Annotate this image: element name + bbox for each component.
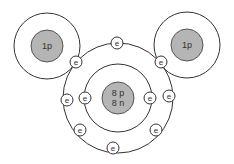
- electron-lower-left: e: [74, 124, 86, 136]
- electron-shared-left: e: [70, 56, 82, 68]
- diagram-canvas: 1p 1p 8 p 8 n eeeeeeeeee: [0, 0, 234, 164]
- electron-shared-right: e: [155, 56, 167, 68]
- oxygen-neutrons-label: 8 n: [112, 98, 125, 108]
- electron-label: e: [74, 58, 79, 67]
- electron-label: e: [115, 39, 120, 48]
- electron-top: e: [111, 37, 123, 49]
- hydrogen-left-nucleus-label: 1p: [42, 41, 52, 51]
- electron-label: e: [111, 144, 116, 153]
- electron-label: e: [148, 94, 153, 103]
- electron-label: e: [167, 92, 172, 101]
- electron-outer-left: e: [61, 94, 73, 106]
- electron-bottom: e: [107, 142, 119, 154]
- electron-label: e: [78, 126, 83, 135]
- hydrogen-atom-left: 1p: [14, 13, 80, 79]
- electron-outer-right: e: [163, 90, 175, 102]
- electron-label: e: [159, 58, 164, 67]
- electron-inner-left: e: [79, 92, 91, 104]
- electron-label: e: [154, 126, 159, 135]
- oxygen-protons-label: 8 p: [112, 88, 125, 98]
- water-molecule-diagram: 1p 1p 8 p 8 n eeeeeeeeee: [0, 0, 234, 164]
- electron-lower-right: e: [150, 124, 162, 136]
- electron-label: e: [65, 96, 70, 105]
- electron-inner-right: e: [144, 92, 156, 104]
- hydrogen-right-nucleus-label: 1p: [182, 40, 192, 50]
- electron-label: e: [83, 94, 88, 103]
